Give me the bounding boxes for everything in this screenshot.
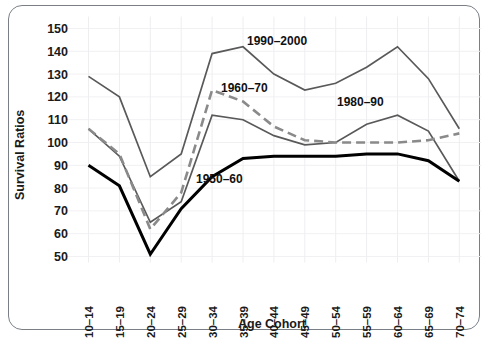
y-axis-tick-label: 100 (47, 136, 68, 150)
chart-container: 5060708090100110120130140150 Survival Ra… (0, 0, 493, 343)
gridlines (67, 17, 482, 263)
x-axis-tick-label: 20–24 (145, 305, 157, 338)
y-axis-tick-label: 110 (48, 113, 68, 127)
series-label: 1960–70 (221, 81, 268, 95)
y-axis-title: Survival Ratios (13, 110, 27, 200)
x-axis-tick-label: 50–54 (330, 305, 342, 338)
y-axis-tick-label: 60 (54, 227, 68, 241)
x-axis-tick-label: 10–14 (83, 305, 95, 338)
y-axis-tick-label: 70 (54, 204, 68, 218)
x-axis-tick-label: 70–74 (454, 305, 466, 338)
x-axis-tick-label: 55–59 (361, 306, 373, 338)
x-axis-tick-label: 60–64 (392, 305, 404, 338)
y-axis-tick-label: 130 (47, 68, 68, 82)
x-axis-title: Age Cohort (238, 317, 307, 331)
series-annotations: 1990–20001960–701980–901950–60 (196, 34, 384, 186)
line-chart: 5060708090100110120130140150 Survival Ra… (0, 0, 493, 343)
x-axis-tick-label: 15–19 (114, 306, 126, 338)
y-axis-tick-label: 90 (54, 159, 68, 173)
x-axis-tick-label: 65–69 (423, 306, 435, 338)
y-axis-tick-labels: 5060708090100110120130140150 (47, 22, 68, 264)
y-axis-tick-label: 80 (54, 182, 68, 196)
x-axis-tick-label: 25–29 (176, 306, 188, 338)
y-axis-tick-label: 150 (47, 22, 68, 36)
y-axis-tick-label: 120 (47, 90, 68, 104)
y-axis-tick-label: 50 (54, 250, 68, 264)
y-axis-tick-label: 140 (47, 45, 68, 59)
series-label: 1990–2000 (247, 34, 307, 48)
series-label: 1950–60 (196, 172, 243, 186)
x-axis-tick-label: 30–34 (207, 305, 219, 338)
series-label: 1980–90 (337, 95, 384, 109)
